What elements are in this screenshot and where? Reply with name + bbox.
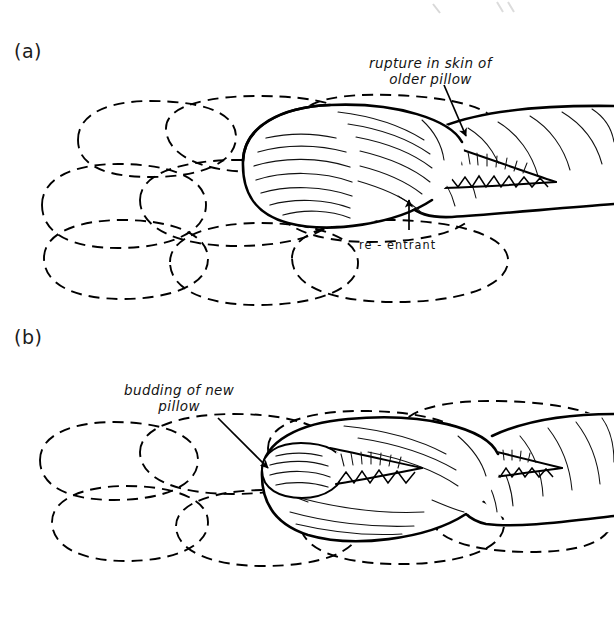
panel-b-label: (b) — [14, 326, 42, 348]
re-entrant-annotation-label: re - entrant — [359, 237, 436, 252]
panel-a-label: (a) — [14, 40, 42, 62]
figure-canvas: .solid { fill:none; stroke:#000; stroke-… — [0, 0, 614, 623]
budding-arrow — [218, 418, 268, 468]
pillow-lava-diagram: .solid { fill:none; stroke:#000; stroke-… — [0, 0, 614, 623]
panel-b-drawing — [40, 401, 614, 566]
ghost-artifact — [433, 2, 514, 13]
panel-b-main-pillow — [262, 417, 501, 541]
panel-a-drawing — [42, 85, 614, 305]
rupture-annotation-label: rupture in skin of older pillow — [369, 55, 492, 87]
dashed-pillow — [40, 422, 198, 500]
dashed-pillow — [42, 164, 206, 248]
budding-annotation-label: budding of new pillow — [124, 382, 234, 414]
dashed-pillow — [52, 486, 208, 561]
dashed-pillow — [170, 223, 358, 305]
